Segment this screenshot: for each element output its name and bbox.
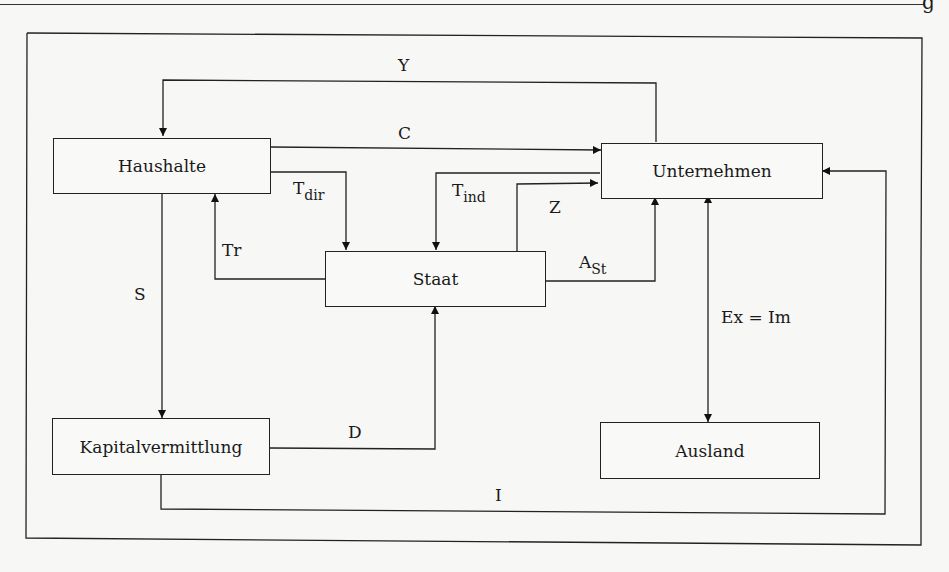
- flow-tr-arrow: [215, 194, 325, 279]
- label-y: Y: [398, 57, 409, 74]
- node-staat: Staat: [325, 251, 546, 307]
- label-tr: Tr: [222, 242, 241, 259]
- label-ast: ASt: [579, 254, 607, 276]
- label-tind: Tind: [452, 182, 486, 204]
- flow-c-arrow: [271, 147, 601, 150]
- label-i: I: [495, 487, 502, 504]
- label-s: S: [134, 286, 146, 303]
- label-d: D: [348, 424, 362, 441]
- label-c: C: [398, 125, 411, 142]
- node-ausland: Ausland: [600, 422, 820, 479]
- node-unternehmen: Unternehmen: [601, 143, 823, 199]
- node-haushalte: Haushalte: [53, 138, 271, 194]
- label-z: Z: [549, 199, 561, 216]
- node-kapitalvermittlung: Kapitalvermittlung: [52, 418, 270, 475]
- label-tdir: Tdir: [293, 180, 324, 202]
- flow-z-arrow: [517, 183, 598, 252]
- label-ex-im: Ex = Im: [721, 309, 791, 326]
